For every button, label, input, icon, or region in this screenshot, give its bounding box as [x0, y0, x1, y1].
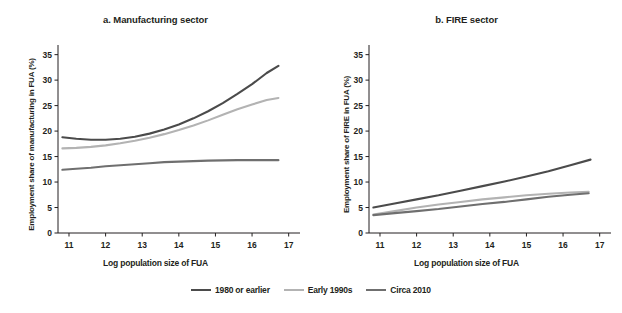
- svg-text:20: 20: [43, 126, 53, 136]
- legend-item: Early 1990s: [284, 285, 353, 295]
- svg-text:17: 17: [284, 240, 294, 250]
- svg-text:12: 12: [412, 240, 422, 250]
- panel-b-x-axis-label: Log population size of FUA: [311, 258, 622, 268]
- svg-text:10: 10: [354, 177, 364, 187]
- svg-text:5: 5: [47, 203, 52, 213]
- legend-label-early-1990s: Early 1990s: [308, 285, 353, 295]
- svg-text:12: 12: [101, 240, 111, 250]
- figure-container: a. Manufacturing sector Employment share…: [0, 0, 622, 313]
- chart-panel-fire: b. FIRE sector Employment share of FIRE …: [311, 0, 622, 285]
- svg-text:35: 35: [354, 50, 364, 60]
- panel-b-plot: 0510152025303511121314151617: [311, 0, 622, 285]
- legend-swatch-early-1990s: [284, 289, 304, 291]
- svg-text:15: 15: [211, 240, 221, 250]
- svg-text:0: 0: [47, 228, 52, 238]
- panel-a-x-axis-label: Log population size of FUA: [0, 258, 311, 268]
- chart-legend: 1980 or earlier Early 1990s Circa 2010: [0, 282, 622, 313]
- chart-panel-manufacturing: a. Manufacturing sector Employment share…: [0, 0, 311, 285]
- legend-item: 1980 or earlier: [191, 285, 270, 295]
- svg-text:25: 25: [354, 101, 364, 111]
- svg-text:10: 10: [43, 177, 53, 187]
- svg-text:16: 16: [558, 240, 568, 250]
- svg-text:0: 0: [358, 228, 363, 238]
- svg-text:20: 20: [354, 126, 364, 136]
- svg-text:35: 35: [43, 50, 53, 60]
- legend-label-1980-or-earlier: 1980 or earlier: [215, 285, 270, 295]
- svg-text:14: 14: [174, 240, 184, 250]
- svg-text:15: 15: [522, 240, 532, 250]
- svg-text:13: 13: [448, 240, 458, 250]
- legend-swatch-1980-or-earlier: [191, 289, 211, 291]
- svg-text:13: 13: [137, 240, 147, 250]
- svg-text:25: 25: [43, 101, 53, 111]
- svg-text:16: 16: [247, 240, 257, 250]
- svg-text:11: 11: [64, 240, 73, 250]
- svg-text:15: 15: [43, 152, 53, 162]
- svg-text:14: 14: [485, 240, 495, 250]
- svg-text:5: 5: [358, 203, 363, 213]
- svg-text:11: 11: [375, 240, 384, 250]
- panel-a-plot: 0510152025303511121314151617: [0, 0, 311, 285]
- legend-swatch-circa-2010: [366, 289, 386, 291]
- svg-text:15: 15: [354, 152, 364, 162]
- svg-text:17: 17: [595, 240, 605, 250]
- legend-label-circa-2010: Circa 2010: [390, 285, 431, 295]
- svg-text:30: 30: [43, 75, 53, 85]
- legend-item: Circa 2010: [366, 285, 431, 295]
- svg-text:30: 30: [354, 75, 364, 85]
